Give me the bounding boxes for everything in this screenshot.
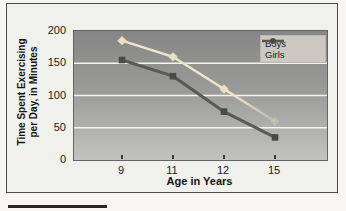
legend-label-girls: Girls — [265, 49, 285, 60]
x-axis-title: Age in Years — [73, 175, 326, 187]
plot-area: Boys Girls — [73, 30, 328, 161]
boys-line — [122, 41, 275, 122]
y-tick-label-0: 0 — [7, 153, 66, 165]
screenshot-root: Time Spent Exercising per Day, in Minute… — [0, 0, 346, 211]
y-tick-label-200: 200 — [7, 24, 66, 36]
girls-point-11 — [170, 73, 177, 80]
y-tick-label-100: 100 — [7, 89, 66, 101]
girls-point-15 — [272, 134, 279, 141]
legend: Boys Girls — [260, 35, 326, 63]
x-tickmark-15 — [274, 155, 276, 159]
legend-item-girls: Girls — [265, 49, 325, 60]
girls-line-sample-icon — [261, 36, 285, 46]
bottom-rule — [8, 205, 107, 208]
y-tick-label-50: 50 — [7, 121, 66, 133]
y-tick-label-150: 150 — [7, 56, 66, 68]
girls-point-12 — [221, 108, 228, 115]
boys-point-9 — [117, 36, 126, 45]
x-tickmark-12 — [223, 155, 225, 159]
x-tickmark-9 — [121, 155, 123, 159]
girls-point-9 — [119, 57, 126, 64]
x-tickmark-11 — [172, 155, 174, 159]
chart-figure: Time Spent Exercising per Day, in Minute… — [6, 3, 338, 193]
